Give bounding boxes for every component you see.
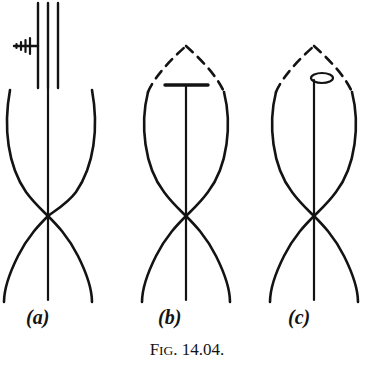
figure-container: (a) (b) (c) FIG. 14.04. (0, 0, 374, 366)
panel-a-curve-lower-right (48, 216, 92, 302)
panel-b-curve-lower-right (186, 216, 230, 302)
panel-c-curve-upper-left (272, 92, 314, 216)
panel-a-curve-upper-right (48, 90, 95, 216)
panel-a-transmission-lines (38, 3, 58, 88)
panel-label-a: (a) (26, 306, 49, 329)
caption-rest: . 14.04. (173, 340, 224, 359)
panel-label-c: (c) (288, 306, 310, 329)
panel-b-curve-upper-right (186, 92, 228, 216)
panel-c-dashed-left (276, 46, 314, 92)
panel-a-graphic (4, 3, 95, 302)
ground-symbol-a (14, 38, 38, 54)
panel-b-graphic (142, 46, 230, 302)
panel-a-curve-upper-left (7, 90, 48, 216)
panel-c-graphic (270, 46, 358, 302)
figure-caption: FIG. 14.04. (0, 340, 374, 360)
caption-prefix: F (150, 340, 159, 359)
panel-c-curve-lower-left (270, 216, 314, 302)
panel-c-curve-lower-right (314, 216, 358, 302)
field-line-diagram-svg (0, 0, 374, 366)
panel-a-curve-lower-left (4, 216, 48, 302)
panel-b-curve-lower-left (142, 216, 186, 302)
caption-smallcaps: IG (159, 343, 173, 358)
loop-icon (311, 73, 333, 83)
panel-label-b: (b) (158, 306, 181, 329)
panel-b-curve-upper-left (144, 92, 186, 216)
panel-c-curve-upper-right (314, 92, 356, 216)
panel-c-dashed-right (314, 46, 352, 92)
